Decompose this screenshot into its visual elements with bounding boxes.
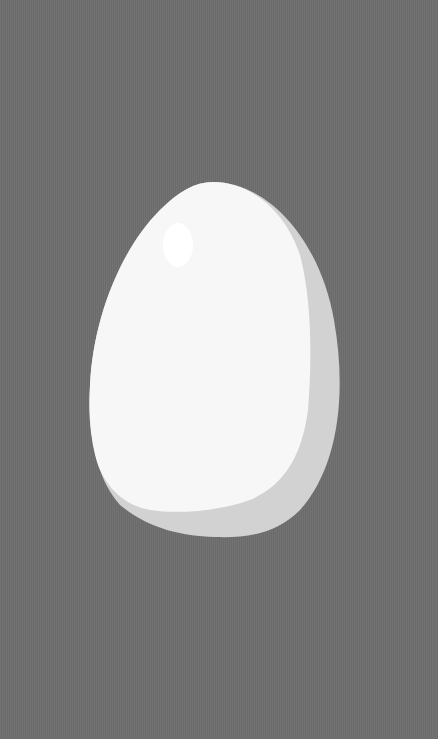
illustration-canvas: White egg on a gray background [0,0,438,739]
egg-illustration [0,0,438,739]
egg-body [89,182,310,512]
egg-highlight [163,223,193,267]
